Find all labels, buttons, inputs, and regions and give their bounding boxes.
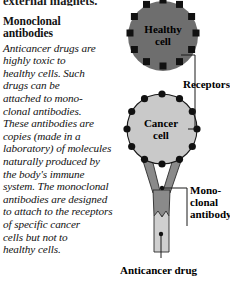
- body-line: to attach to the receptors: [3, 205, 115, 218]
- receptor-icon: [143, 58, 150, 65]
- body-paragraph: Anticancer drugs are highly toxic to hea…: [3, 42, 115, 256]
- heading-line-2: antibodies: [3, 27, 53, 40]
- diagram-column: Healthy cell: [115, 0, 230, 281]
- body-line: drugs can be: [3, 79, 115, 92]
- receptor-icon: [188, 46, 195, 53]
- receptor-icon: [193, 30, 200, 37]
- receptor-icon: [188, 13, 195, 20]
- receptor-icon: [160, 63, 167, 70]
- figure-monoclonal-antibodies: external magnets. Monoclonal antibodies …: [0, 0, 230, 281]
- receptor-icon: [143, 1, 150, 8]
- body-line: copies (made in a: [3, 130, 115, 143]
- body-line: healthy cells. Such: [3, 67, 115, 80]
- receptors-callout-label: Receptors: [183, 78, 230, 90]
- antibody-callout-line-3: antibody: [190, 208, 230, 220]
- receptor-icon: [131, 13, 138, 20]
- body-line: These antibodies are: [3, 117, 115, 130]
- text-column: external magnets. Monoclonal antibodies …: [3, 0, 115, 256]
- receptor-icon: [158, 160, 165, 167]
- drug-leader-dot: [159, 232, 163, 236]
- body-line: highly toxic to: [3, 54, 115, 67]
- section-heading: Monoclonal antibodies: [3, 16, 115, 41]
- body-line: clonal antibodies.: [3, 105, 115, 118]
- body-line: cells but not to: [3, 231, 115, 244]
- clipped-previous-line: external magnets.: [3, 0, 115, 6]
- antibody-callout-line-1: Mono-: [190, 184, 222, 196]
- receptor-icon: [176, 95, 183, 102]
- antibody-stem: [153, 190, 170, 216]
- receptor-icon: [176, 1, 183, 8]
- receptor-icon: [128, 108, 135, 115]
- antibody-leader-dot: [160, 186, 164, 190]
- receptor-icon: [176, 58, 183, 65]
- body-line: healthy cells.: [3, 243, 115, 256]
- receptor-icon: [160, 0, 167, 4]
- body-line: antibodies are designed: [3, 193, 115, 206]
- receptor-icon: [131, 46, 138, 53]
- antibody-callout-line-2: clonal: [190, 196, 218, 208]
- body-line: naturally produced by: [3, 155, 115, 168]
- healthy-cell-label-line-1: Healthy: [144, 23, 182, 35]
- receptor-icon: [176, 156, 183, 163]
- healthy-cell-label-line-2: cell: [155, 35, 171, 47]
- cancer-cell-label-line-1: Cancer: [144, 117, 178, 129]
- body-line: system. The monoclonal: [3, 180, 115, 193]
- receptor-icon: [128, 143, 135, 150]
- body-line: Anticancer drugs are: [3, 42, 115, 55]
- healthy-cell: Healthy cell: [127, 0, 200, 71]
- receptor-icon: [158, 90, 165, 97]
- body-line: the body's immune: [3, 168, 115, 181]
- body-line: of specific cancer: [3, 218, 115, 231]
- anticancer-drug-callout-label: Anticancer drug: [120, 264, 198, 276]
- body-line: attached to mono-: [3, 92, 115, 105]
- receptor-icon: [141, 95, 148, 102]
- receptor-icon: [189, 143, 196, 150]
- cancer-cell-label-line-2: cell: [153, 129, 169, 141]
- receptor-icon: [141, 156, 148, 163]
- heading-line-1: Monoclonal: [3, 15, 61, 28]
- receptor-icon: [123, 125, 130, 132]
- receptor-icon: [127, 30, 134, 37]
- body-line: laboratory) of molecules: [3, 142, 115, 155]
